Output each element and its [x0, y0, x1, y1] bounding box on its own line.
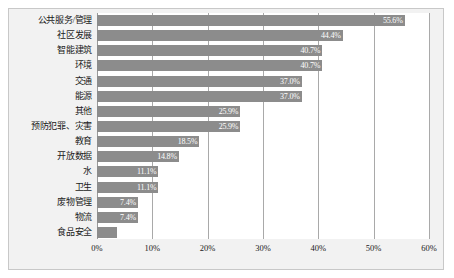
bar: 25.9% — [97, 106, 240, 117]
bar-row: 11.1% — [97, 182, 429, 193]
category-label: 公共服务/管理 — [11, 15, 95, 26]
bar-row: 44.4% — [97, 30, 429, 41]
category-label: 食品安全 — [11, 227, 95, 238]
bar-value-label: 37.0% — [280, 92, 302, 101]
bar-row: 37.0% — [97, 76, 429, 87]
bar — [97, 227, 117, 238]
bar-value-label: 55.6% — [383, 16, 405, 25]
plot-area: 55.6% 44.4% 40.7% 40.7% 37.0% — [97, 13, 429, 239]
x-axis-tick-label: 0% — [91, 243, 102, 253]
bar: 37.0% — [97, 91, 302, 102]
bar-row: 55.6% — [97, 15, 429, 26]
category-label: 能源 — [11, 91, 95, 102]
category-label: 卫生 — [11, 182, 95, 193]
gridline — [429, 13, 430, 239]
bar: 40.7% — [97, 60, 322, 71]
category-label: 环境 — [11, 60, 95, 71]
x-axis-labels: 0%10%20%30%40%50%60% — [97, 241, 429, 261]
x-axis-tick-label: 50% — [366, 243, 382, 253]
x-axis-tick-label: 20% — [200, 243, 216, 253]
bar-value-label: 7.4% — [120, 213, 138, 222]
bar-row: 14.8% — [97, 151, 429, 162]
bar-row: 7.4% — [97, 212, 429, 223]
category-label: 社区发展 — [11, 30, 95, 41]
bar-value-label: 11.1% — [137, 183, 158, 192]
bar: 11.1% — [97, 182, 158, 193]
category-label: 废物管理 — [11, 197, 95, 208]
category-label: 其他 — [11, 106, 95, 117]
bar-row: 40.7% — [97, 45, 429, 56]
bar-row: 25.9% — [97, 106, 429, 117]
bar-value-label: 37.0% — [280, 77, 302, 86]
bar-row: 37.0% — [97, 91, 429, 102]
bar: 18.5% — [97, 136, 199, 147]
bar-value-label: 14.8% — [157, 152, 179, 161]
bar: 44.4% — [97, 30, 343, 41]
bar-value-label: 25.9% — [219, 107, 241, 116]
bar-value-label: 40.7% — [301, 61, 323, 70]
x-axis-tick-label: 30% — [255, 243, 271, 253]
bar: 55.6% — [97, 15, 405, 26]
category-label: 水 — [11, 166, 95, 177]
bar-row: 7.4% — [97, 197, 429, 208]
category-label: 开放数据 — [11, 151, 95, 162]
bar: 11.1% — [97, 166, 158, 177]
x-axis-tick-label: 40% — [311, 243, 327, 253]
bar-row: 11.1% — [97, 166, 429, 177]
category-label: 教育 — [11, 136, 95, 147]
category-label: 预防犯罪、灾害 — [11, 121, 95, 132]
bar: 7.4% — [97, 212, 138, 223]
bar-value-label: 18.5% — [178, 137, 200, 146]
bar-value-label: 7.4% — [120, 198, 138, 207]
bar-row — [97, 227, 429, 238]
bar: 25.9% — [97, 121, 240, 132]
category-label: 智能建筑 — [11, 45, 95, 56]
bar-row: 25.9% — [97, 121, 429, 132]
bar-value-label: 11.1% — [137, 167, 158, 176]
category-label: 交通 — [11, 76, 95, 87]
bar: 37.0% — [97, 76, 302, 87]
category-label: 物流 — [11, 212, 95, 223]
chart-panel: 公共服务/管理 社区发展 智能建筑 环境 交通 能源 其他 预防犯罪、灾害 教育… — [8, 8, 444, 270]
x-axis-tick-label: 60% — [421, 243, 437, 253]
bar: 40.7% — [97, 45, 322, 56]
bar-rows: 55.6% 44.4% 40.7% 40.7% 37.0% — [97, 13, 429, 239]
bar: 14.8% — [97, 151, 179, 162]
bar: 7.4% — [97, 197, 138, 208]
bar-row: 18.5% — [97, 136, 429, 147]
bar-value-label: 44.4% — [321, 31, 343, 40]
category-axis-labels: 公共服务/管理 社区发展 智能建筑 环境 交通 能源 其他 预防犯罪、灾害 教育… — [11, 13, 95, 239]
bar-row: 40.7% — [97, 60, 429, 71]
bar-value-label: 25.9% — [219, 122, 241, 131]
x-axis-tick-label: 10% — [145, 243, 161, 253]
bar-value-label: 40.7% — [301, 46, 323, 55]
